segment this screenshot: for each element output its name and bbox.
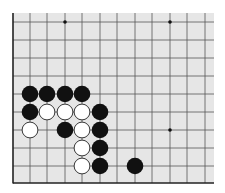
white-stone — [74, 158, 90, 174]
white-stone — [74, 104, 90, 120]
star-point — [63, 20, 67, 24]
black-stone — [74, 86, 91, 103]
white-stone — [74, 122, 90, 138]
white-stone — [57, 104, 73, 120]
black-stone — [39, 86, 56, 103]
black-stone — [92, 104, 109, 121]
black-stone — [57, 122, 74, 139]
black-stone — [57, 86, 74, 103]
star-point — [168, 128, 172, 132]
go-board-diagram — [0, 0, 225, 193]
black-stone — [92, 158, 109, 175]
black-stone — [22, 86, 39, 103]
black-stone — [92, 140, 109, 157]
white-stone — [39, 104, 55, 120]
black-stone — [127, 158, 144, 175]
white-stone — [74, 140, 90, 156]
black-stone — [92, 122, 109, 139]
star-point — [168, 20, 172, 24]
black-stone — [22, 104, 39, 121]
white-stone — [22, 122, 38, 138]
